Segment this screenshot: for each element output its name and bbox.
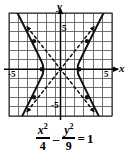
vertex-left	[40, 67, 45, 72]
x-axis-label: x	[119, 63, 125, 74]
equation-rhs: 1	[87, 132, 94, 145]
center-point	[58, 67, 62, 71]
point-upper-left	[32, 39, 36, 43]
minus-operator: –	[52, 132, 61, 145]
x-term-numerator: x2	[36, 124, 50, 136]
point-upper-right	[85, 39, 89, 43]
y-exponent: 2	[69, 123, 73, 131]
equals-sign: =	[77, 132, 84, 145]
point-lower-left	[32, 95, 36, 99]
x-term-fraction: x2 4	[36, 124, 50, 152]
vertex-right	[77, 67, 82, 72]
y-term-denominator: 9	[64, 140, 74, 152]
y-axis-label: y	[57, 1, 62, 12]
tick-label-x-negative: -5	[8, 70, 16, 79]
x-term-denominator: 4	[38, 140, 48, 152]
y-term-numerator: y2	[62, 124, 75, 136]
x-exponent: 2	[44, 123, 48, 131]
equation: x2 4 – y2 9 = 1	[0, 119, 129, 157]
tick-label-x-positive: 5	[104, 70, 109, 79]
tick-label-y-positive: 5	[62, 24, 67, 33]
equation-row: x2 4 – y2 9 = 1	[36, 124, 94, 152]
point-lower-right	[85, 95, 89, 99]
tick-label-y-negative: -5	[51, 101, 59, 110]
y-term-fraction: y2 9	[62, 124, 75, 152]
